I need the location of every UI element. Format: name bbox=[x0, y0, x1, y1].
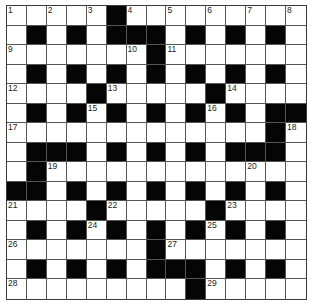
grid-cell[interactable] bbox=[27, 279, 47, 299]
grid-cell[interactable]: 22 bbox=[107, 201, 127, 221]
grid-cell[interactable] bbox=[127, 162, 147, 182]
grid-cell[interactable] bbox=[127, 240, 147, 260]
grid-cell[interactable] bbox=[286, 26, 306, 46]
grid-cell[interactable]: 28 bbox=[7, 279, 27, 299]
grid-cell[interactable] bbox=[266, 45, 286, 65]
grid-cell[interactable]: 23 bbox=[226, 201, 246, 221]
grid-cell[interactable] bbox=[286, 201, 306, 221]
grid-cell[interactable] bbox=[286, 162, 306, 182]
grid-cell[interactable] bbox=[7, 104, 27, 124]
grid-cell[interactable] bbox=[87, 65, 107, 85]
grid-cell[interactable] bbox=[127, 123, 147, 143]
grid-cell[interactable] bbox=[266, 84, 286, 104]
grid-cell[interactable]: 2 bbox=[47, 6, 67, 26]
grid-cell[interactable] bbox=[246, 65, 266, 85]
grid-cell[interactable]: 25 bbox=[206, 221, 226, 241]
grid-cell[interactable]: 7 bbox=[246, 6, 266, 26]
grid-cell[interactable] bbox=[246, 201, 266, 221]
grid-cell[interactable] bbox=[246, 104, 266, 124]
grid-cell[interactable] bbox=[87, 45, 107, 65]
grid-cell[interactable] bbox=[266, 6, 286, 26]
grid-cell[interactable] bbox=[266, 240, 286, 260]
grid-cell[interactable] bbox=[7, 162, 27, 182]
grid-cell[interactable] bbox=[47, 279, 67, 299]
grid-cell[interactable] bbox=[206, 182, 226, 202]
grid-cell[interactable] bbox=[47, 26, 67, 46]
grid-cell[interactable] bbox=[107, 240, 127, 260]
grid-cell[interactable] bbox=[186, 123, 206, 143]
grid-cell[interactable]: 13 bbox=[107, 84, 127, 104]
grid-cell[interactable] bbox=[87, 143, 107, 163]
grid-cell[interactable] bbox=[147, 84, 167, 104]
grid-cell[interactable] bbox=[27, 240, 47, 260]
grid-cell[interactable] bbox=[286, 260, 306, 280]
grid-cell[interactable] bbox=[127, 279, 147, 299]
grid-cell[interactable] bbox=[7, 65, 27, 85]
grid-cell[interactable] bbox=[127, 104, 147, 124]
grid-cell[interactable] bbox=[186, 240, 206, 260]
grid-cell[interactable] bbox=[206, 240, 226, 260]
grid-cell[interactable] bbox=[147, 201, 167, 221]
grid-cell[interactable]: 5 bbox=[166, 6, 186, 26]
grid-cell[interactable] bbox=[166, 26, 186, 46]
grid-cell[interactable] bbox=[87, 123, 107, 143]
grid-cell[interactable] bbox=[206, 123, 226, 143]
grid-cell[interactable] bbox=[246, 123, 266, 143]
grid-cell[interactable] bbox=[246, 26, 266, 46]
grid-cell[interactable]: 1 bbox=[7, 6, 27, 26]
grid-cell[interactable] bbox=[286, 221, 306, 241]
grid-cell[interactable]: 4 bbox=[127, 6, 147, 26]
grid-cell[interactable] bbox=[206, 45, 226, 65]
grid-cell[interactable] bbox=[226, 45, 246, 65]
grid-cell[interactable] bbox=[87, 182, 107, 202]
grid-cell[interactable] bbox=[266, 279, 286, 299]
grid-cell[interactable]: 17 bbox=[7, 123, 27, 143]
grid-cell[interactable] bbox=[166, 65, 186, 85]
grid-cell[interactable] bbox=[147, 6, 167, 26]
grid-cell[interactable] bbox=[27, 201, 47, 221]
grid-cell[interactable] bbox=[246, 260, 266, 280]
grid-cell[interactable] bbox=[206, 65, 226, 85]
grid-cell[interactable] bbox=[47, 240, 67, 260]
grid-cell[interactable] bbox=[67, 6, 87, 26]
grid-cell[interactable] bbox=[67, 84, 87, 104]
grid-cell[interactable] bbox=[147, 162, 167, 182]
grid-cell[interactable] bbox=[47, 182, 67, 202]
grid-cell[interactable]: 29 bbox=[206, 279, 226, 299]
grid-cell[interactable]: 15 bbox=[87, 104, 107, 124]
grid-cell[interactable]: 20 bbox=[246, 162, 266, 182]
grid-cell[interactable] bbox=[127, 65, 147, 85]
grid-cell[interactable] bbox=[127, 221, 147, 241]
grid-cell[interactable] bbox=[47, 123, 67, 143]
grid-cell[interactable] bbox=[107, 162, 127, 182]
grid-cell[interactable] bbox=[87, 279, 107, 299]
grid-cell[interactable]: 18 bbox=[286, 123, 306, 143]
grid-cell[interactable] bbox=[286, 84, 306, 104]
grid-cell[interactable] bbox=[286, 143, 306, 163]
grid-cell[interactable] bbox=[87, 26, 107, 46]
grid-cell[interactable] bbox=[166, 201, 186, 221]
grid-cell[interactable]: 26 bbox=[7, 240, 27, 260]
grid-cell[interactable] bbox=[67, 201, 87, 221]
grid-cell[interactable] bbox=[206, 26, 226, 46]
grid-cell[interactable]: 6 bbox=[206, 6, 226, 26]
grid-cell[interactable] bbox=[246, 84, 266, 104]
grid-cell[interactable] bbox=[246, 182, 266, 202]
grid-cell[interactable] bbox=[107, 123, 127, 143]
grid-cell[interactable]: 10 bbox=[127, 45, 147, 65]
grid-cell[interactable] bbox=[47, 221, 67, 241]
grid-cell[interactable]: 16 bbox=[206, 104, 226, 124]
grid-cell[interactable] bbox=[206, 260, 226, 280]
grid-cell[interactable] bbox=[266, 201, 286, 221]
grid-cell[interactable] bbox=[107, 45, 127, 65]
grid-cell[interactable] bbox=[7, 221, 27, 241]
grid-cell[interactable] bbox=[186, 201, 206, 221]
grid-cell[interactable]: 24 bbox=[87, 221, 107, 241]
grid-cell[interactable] bbox=[286, 65, 306, 85]
grid-cell[interactable] bbox=[127, 143, 147, 163]
grid-cell[interactable] bbox=[87, 240, 107, 260]
grid-cell[interactable] bbox=[87, 260, 107, 280]
grid-cell[interactable] bbox=[286, 45, 306, 65]
grid-cell[interactable] bbox=[286, 240, 306, 260]
grid-cell[interactable] bbox=[47, 65, 67, 85]
